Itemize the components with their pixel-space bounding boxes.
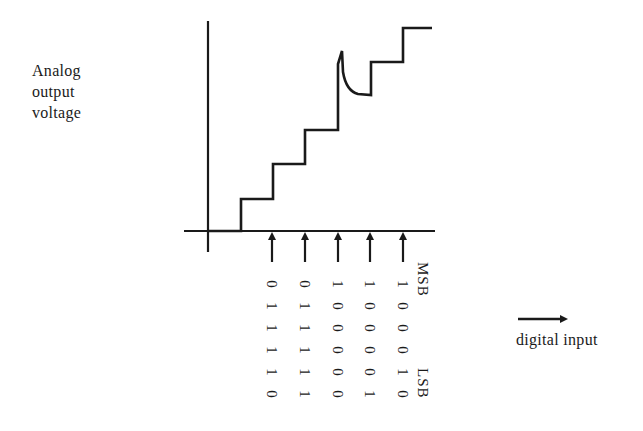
input-code-column: 0 1 1 1 1 0	[262, 273, 282, 405]
bit: 0	[392, 296, 414, 316]
bit: 1	[261, 318, 283, 338]
bit: 1	[261, 340, 283, 360]
bit: 0	[327, 362, 349, 382]
bit: 1	[294, 362, 316, 382]
bit: 0	[261, 274, 283, 294]
bit: 0	[327, 340, 349, 360]
lsb-label: LSB	[414, 368, 431, 399]
staircase-waveform	[208, 28, 432, 231]
bit: 1	[359, 384, 381, 404]
bit: 0	[294, 274, 316, 294]
input-code-column: 1 0 0 0 0 0	[328, 273, 348, 405]
msb-label: MSB	[414, 262, 431, 297]
bit: 0	[327, 384, 349, 404]
x-axis-label: digital input	[516, 331, 598, 349]
bit: 0	[392, 340, 414, 360]
bit: 0	[359, 340, 381, 360]
bit: 1	[392, 362, 414, 382]
dac-staircase-plot	[0, 0, 643, 431]
bit: 1	[294, 318, 316, 338]
bit: 1	[327, 274, 349, 294]
bit: 0	[359, 318, 381, 338]
bit: 0	[327, 296, 349, 316]
bit: 1	[294, 296, 316, 316]
bit: 1	[359, 274, 381, 294]
bit: 1	[294, 340, 316, 360]
bit: 0	[392, 318, 414, 338]
bit: 1	[392, 274, 414, 294]
input-code-column: 0 1 1 1 1 1	[295, 273, 315, 405]
bit: 0	[261, 384, 283, 404]
input-code-column: 1 0 0 0 1 0	[393, 273, 413, 405]
bit: 0	[359, 296, 381, 316]
input-code-column: 1 0 0 0 0 1	[360, 273, 380, 405]
bit: 1	[294, 384, 316, 404]
bit: 1	[261, 362, 283, 382]
bit: 1	[261, 296, 283, 316]
input-code-arrows	[272, 236, 403, 262]
bit: 0	[327, 318, 349, 338]
bit: 0	[392, 384, 414, 404]
bit: 0	[359, 362, 381, 382]
